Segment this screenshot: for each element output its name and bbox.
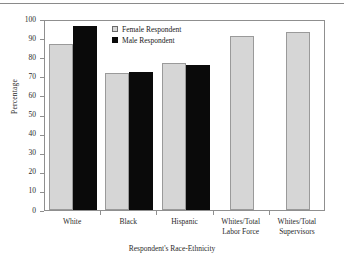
y-tick-label: 80 <box>29 53 37 62</box>
y-tick-mark <box>40 154 44 155</box>
bar <box>162 63 186 210</box>
bar-chart: Percentage 0102030405060708090100 WhiteB… <box>0 0 344 266</box>
legend-item-male: Male Respondent <box>112 35 181 45</box>
bar <box>230 36 254 210</box>
y-tick-mark <box>40 173 44 174</box>
x-axis-label-line: Hispanic <box>156 217 212 227</box>
chart-legend: Female Respondent Male Respondent <box>112 24 181 46</box>
y-tick-mark <box>40 96 44 97</box>
y-tick-mark <box>40 135 44 136</box>
x-axis-label-line: Labor Force <box>213 227 269 237</box>
y-tick-mark <box>40 211 44 212</box>
y-tick-label: 20 <box>29 167 37 176</box>
x-axis-label: White <box>44 217 100 227</box>
x-axis-label-line: Supervisors <box>269 227 325 237</box>
y-tick-mark <box>40 77 44 78</box>
y-tick-label: 50 <box>29 110 37 119</box>
y-tick-label: 60 <box>29 91 37 100</box>
x-axis-label: Whites/TotalSupervisors <box>269 217 325 237</box>
x-axis-label-line: Whites/Total <box>269 217 325 227</box>
x-axis-label-line: White <box>44 217 100 227</box>
y-tick-label: 70 <box>29 72 37 81</box>
y-tick-label: 90 <box>29 34 37 43</box>
legend-label-female: Female Respondent <box>122 25 181 34</box>
bar <box>186 65 210 210</box>
x-axis-label-line: Whites/Total <box>213 217 269 227</box>
bar <box>129 72 153 210</box>
legend-label-male: Male Respondent <box>122 36 175 45</box>
y-tick-label: 0 <box>32 206 36 215</box>
y-tick-label: 100 <box>25 15 36 24</box>
legend-item-female: Female Respondent <box>112 24 181 34</box>
x-tick-mark <box>269 211 270 215</box>
x-axis-label: Black <box>100 217 156 227</box>
x-axis-label: Hispanic <box>156 217 212 227</box>
x-tick-mark <box>100 211 101 215</box>
y-tick-label: 40 <box>29 129 37 138</box>
y-tick-mark <box>40 116 44 117</box>
plot-area <box>44 20 325 211</box>
x-axis-label: Whites/TotalLabor Force <box>213 217 269 237</box>
y-tick-label: 10 <box>29 186 37 195</box>
legend-swatch-male-icon <box>112 37 118 43</box>
y-tick-label: 30 <box>29 148 37 157</box>
bar <box>49 44 73 210</box>
y-tick-mark <box>40 20 44 21</box>
x-axis-label-line: Black <box>100 217 156 227</box>
bar <box>105 73 129 210</box>
bar <box>73 26 97 210</box>
y-tick-mark <box>40 39 44 40</box>
x-tick-mark <box>156 211 157 215</box>
bar <box>286 32 310 210</box>
y-axis-title: Percentage <box>10 52 19 142</box>
x-axis-title: Respondent's Race-Ethnicity <box>0 244 344 253</box>
y-tick-mark <box>40 58 44 59</box>
y-tick-mark <box>40 192 44 193</box>
legend-swatch-female-icon <box>112 26 118 32</box>
x-tick-mark <box>213 211 214 215</box>
